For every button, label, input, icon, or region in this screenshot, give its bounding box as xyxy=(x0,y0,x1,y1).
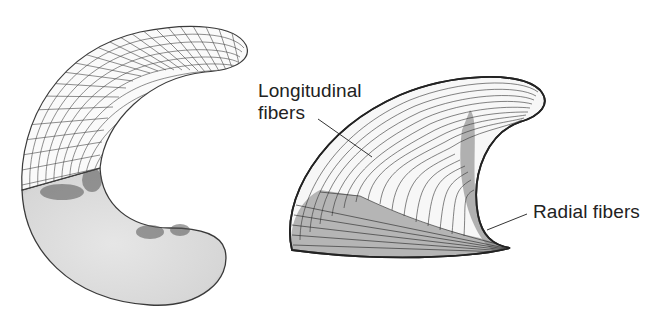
longitudinal-label-line1: Longitudinal xyxy=(258,80,362,102)
left-c-shaped-model xyxy=(22,26,248,305)
longitudinal-label-line2: fibers xyxy=(258,102,362,124)
radial-fibers-label: Radial fibers xyxy=(533,201,640,223)
longitudinal-fibers-label: Longitudinal fibers xyxy=(258,80,362,124)
figure-canvas xyxy=(0,0,670,317)
radial-leader-line xyxy=(487,214,527,230)
